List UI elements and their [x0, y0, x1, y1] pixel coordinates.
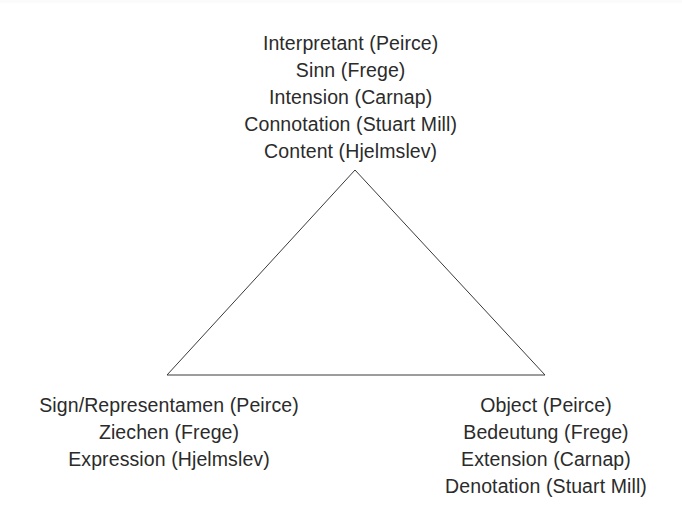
vertex-label-interpretant: Interpretant (Peirce) Sinn (Frege) Inten… [51, 30, 651, 165]
vertex-label-line: Extension (Carnap) [346, 446, 682, 473]
vertex-label-line: Expression (Hjelmslev) [0, 446, 369, 473]
vertex-label-line: Ziechen (Frege) [0, 419, 369, 446]
vertex-label-line: Interpretant (Peirce) [51, 30, 651, 57]
vertex-label-line: Content (Hjelmslev) [51, 138, 651, 165]
vertex-label-line: Intension (Carnap) [51, 84, 651, 111]
semiotic-triangle-diagram: Interpretant (Peirce) Sinn (Frege) Inten… [0, 0, 682, 514]
triangle-polygon [167, 170, 545, 375]
vertex-label-line: Object (Peirce) [346, 392, 682, 419]
vertex-label-line: Sinn (Frege) [51, 57, 651, 84]
vertex-label-line: Bedeutung (Frege) [346, 419, 682, 446]
vertex-label-line: Connotation (Stuart Mill) [51, 111, 651, 138]
vertex-label-line: Sign/Representamen (Peirce) [0, 392, 369, 419]
vertex-label-sign: Sign/Representamen (Peirce) Ziechen (Fre… [0, 392, 369, 473]
vertex-label-object: Object (Peirce) Bedeutung (Frege) Extens… [346, 392, 682, 500]
vertex-label-line: Denotation (Stuart Mill) [346, 473, 682, 500]
